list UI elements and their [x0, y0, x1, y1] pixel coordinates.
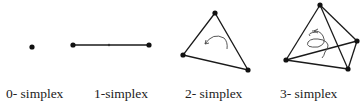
three-simplex	[283, 2, 359, 71]
orientation-arrow-icon	[205, 36, 227, 49]
midpoint	[108, 44, 110, 46]
label-3-simplex: 3- simplex	[280, 86, 337, 102]
vertex	[70, 42, 75, 47]
one-simplex	[70, 42, 151, 47]
vertex	[29, 44, 34, 49]
label-0-simplex: 0- simplex	[6, 86, 63, 102]
vertex	[146, 42, 151, 47]
label-2-simplex: 2- simplex	[185, 86, 242, 102]
triangle	[183, 13, 248, 70]
two-simplex	[180, 10, 250, 72]
label-1-simplex: 1-simplex	[94, 86, 148, 102]
zero-simplex	[29, 44, 34, 49]
